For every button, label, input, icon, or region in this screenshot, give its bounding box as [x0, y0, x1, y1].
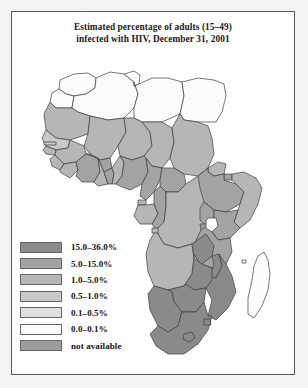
legend-item-15-36: 15.0–36.0%: [20, 239, 160, 255]
legend-label: 0.0–0.1%: [71, 324, 108, 334]
hiv-prevalence-figure: Estimated percentage of adults (15–49) i…: [0, 0, 308, 388]
legend-item-1-5: 1.0–5.0%: [20, 272, 160, 288]
region-madagascar: [248, 252, 270, 318]
region-djibouti: [224, 174, 232, 180]
region-libya: [134, 78, 184, 122]
legend-item-05-1: 0.5–1.0%: [20, 288, 160, 304]
legend-swatch-icon: [20, 324, 62, 335]
region-gambia: [44, 142, 56, 145]
region-equatorial-guinea: [138, 200, 146, 205]
legend-swatch-icon: [20, 258, 62, 269]
legend-item-5-15: 5.0–15.0%: [20, 255, 160, 271]
legend-label: 1.0–5.0%: [71, 275, 108, 285]
region-cabinda: [152, 228, 158, 233]
legend-swatch-icon: [20, 340, 62, 351]
legend-item-not-available: not available: [20, 337, 160, 353]
region-egypt: [180, 78, 226, 122]
region-sudan: [170, 114, 214, 176]
legend-item-00-01: 0.0–0.1%: [20, 321, 160, 337]
legend-label: not available: [71, 341, 122, 351]
legend-swatch-icon: [20, 274, 62, 285]
legend-item-01-05: 0.1–0.5%: [20, 305, 160, 321]
region-comoros: [242, 260, 246, 263]
map-legend: 15.0–36.0% 5.0–15.0% 1.0–5.0% 0.5–1.0% 0…: [20, 239, 160, 354]
legend-swatch-icon: [20, 307, 62, 318]
legend-label: 15.0–36.0%: [71, 242, 117, 252]
region-swaziland: [204, 319, 211, 325]
legend-label: 0.1–0.5%: [71, 308, 108, 318]
legend-swatch-icon: [20, 291, 62, 302]
figure-frame: Estimated percentage of adults (15–49) i…: [11, 11, 295, 375]
legend-swatch-icon: [20, 242, 62, 253]
legend-label: 0.5–1.0%: [71, 291, 108, 301]
title-line-1: Estimated percentage of adults (15–49): [12, 21, 294, 33]
legend-label: 5.0–15.0%: [71, 259, 112, 269]
